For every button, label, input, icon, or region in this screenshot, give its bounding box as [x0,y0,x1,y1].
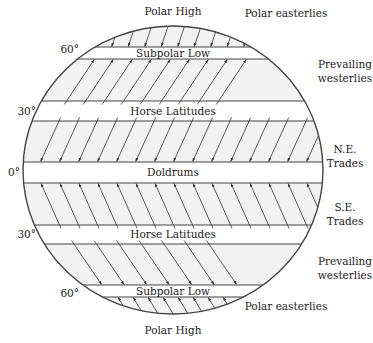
polar-high-bottom-label: Polar High [145,324,202,336]
calm-belt-label: Doldrums [147,166,199,178]
wind-belt-label: N.E. [334,143,357,155]
wind-belts-diagram: Polar High Polar High Subpolar LowHorse … [0,0,373,343]
latitude-label: 0° [8,166,20,178]
wind-belt-label: Polar easterlies [245,7,328,19]
polar-high-top-label: Polar High [145,5,202,17]
wind-belt-label: S.E. [334,201,355,213]
latitude-label: 60° [60,287,79,299]
wind-belt-label: Prevailing [318,58,372,70]
wind-belt-label: Prevailing [318,255,372,267]
calm-belt-label: Horse Latitudes [130,228,216,240]
latitude-label: 60° [60,43,79,55]
calm-belt-label: Horse Latitudes [130,105,216,117]
calm-belt-label: Subpolar Low [136,47,210,59]
wind-belt-label: Trades [327,215,364,227]
wind-belt-label: westerlies [318,72,372,84]
calm-belt-label: Subpolar Low [136,285,210,297]
latitude-label: 30° [17,228,36,240]
wind-belt-label: Polar easterlies [245,300,328,312]
wind-belt-label: westerlies [318,269,372,281]
latitude-label: 30° [17,105,36,117]
wind-belt-label: Trades [327,157,364,169]
